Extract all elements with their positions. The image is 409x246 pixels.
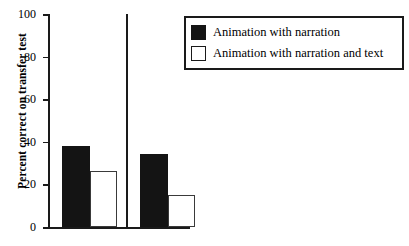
legend-item-narration: Animation with narration xyxy=(191,22,396,43)
y-tick-label-40: 40 xyxy=(24,136,36,148)
legend-label-narration: Animation with narration xyxy=(213,26,340,39)
y-tick-label-100: 100 xyxy=(18,8,36,20)
legend-swatch-solid-icon xyxy=(191,25,206,40)
bar-panel1-narration xyxy=(62,146,90,227)
y-tick-20: 20 xyxy=(43,184,49,186)
y-tick-40: 40 xyxy=(43,142,49,144)
y-tick-0: 0 xyxy=(43,227,49,229)
legend-label-narration-and-text: Animation with narration and text xyxy=(213,47,383,60)
legend-item-narration-and-text: Animation with narration and text xyxy=(191,43,396,64)
bar-panel2-narration xyxy=(140,154,168,227)
plot-area: 100 80 60 40 20 0 xyxy=(48,14,190,229)
y-tick-label-80: 80 xyxy=(24,51,36,63)
y-tick-100: 100 xyxy=(43,14,49,16)
y-tick-label-20: 20 xyxy=(24,178,36,190)
y-tick-label-0: 0 xyxy=(30,221,36,233)
bar-panel1-narration-and-text xyxy=(90,171,117,227)
bar-panel2-narration-and-text xyxy=(168,195,195,227)
chart-legend: Animation with narration Animation with … xyxy=(184,16,404,70)
y-tick-label-60: 60 xyxy=(24,93,36,105)
panel-divider-line xyxy=(126,14,128,229)
legend-swatch-open-icon xyxy=(191,46,206,61)
bar-chart-figure: Percent correct on transfer test 100 80 … xyxy=(0,0,409,246)
x-axis-line xyxy=(48,227,190,229)
y-tick-80: 80 xyxy=(43,57,49,59)
y-axis-line xyxy=(48,14,50,229)
y-tick-60: 60 xyxy=(43,99,49,101)
